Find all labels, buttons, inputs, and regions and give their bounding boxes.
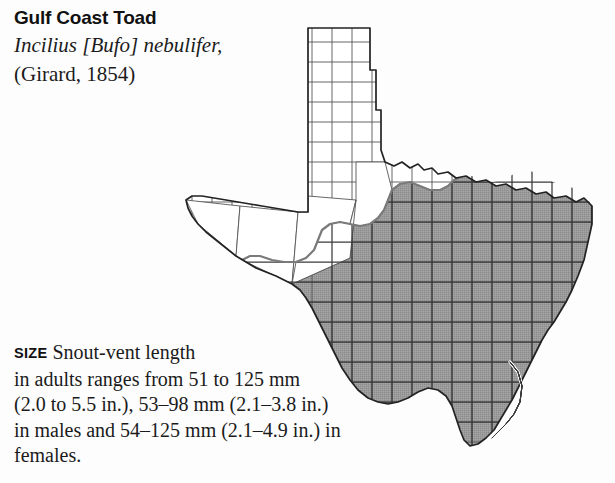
size-line-1: Snout-vent length [47, 341, 195, 363]
size-label: SIZE [14, 345, 47, 361]
species-account-page: Gulf Coast Toad Incilius [Bufo] nebulife… [0, 0, 615, 483]
texas-map-svg [180, 10, 615, 460]
distribution-map [180, 10, 615, 460]
